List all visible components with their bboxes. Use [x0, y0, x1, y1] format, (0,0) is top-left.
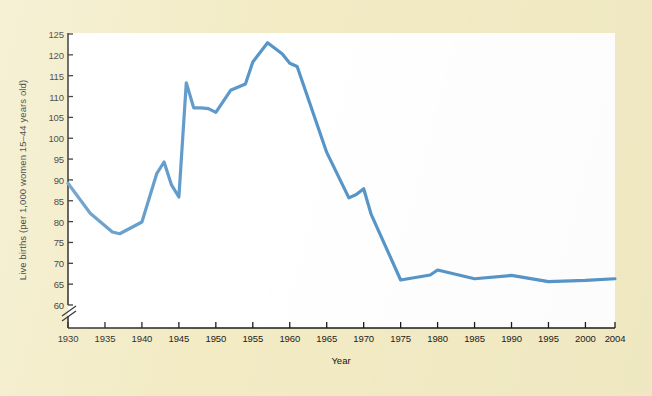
y-tick-label: 110: [38, 91, 64, 102]
x-tick-label: 1995: [538, 333, 559, 344]
y-tick-label: 80: [38, 216, 64, 227]
x-tick-label: 1980: [427, 333, 448, 344]
y-tick-label: 120: [38, 49, 64, 60]
x-axis-title: Year: [331, 355, 350, 366]
x-tick-label: 1955: [242, 333, 263, 344]
y-tick-label: 65: [38, 279, 64, 290]
y-tick-label: 105: [38, 112, 64, 123]
x-tick-label: 1960: [279, 333, 300, 344]
y-tick-label: 95: [38, 154, 64, 165]
x-tick-label: 1990: [501, 333, 522, 344]
x-tick-label: 1930: [58, 333, 79, 344]
y-tick-label: 115: [38, 70, 64, 81]
x-tick-label: 1975: [390, 333, 411, 344]
x-tick-label: 2004: [605, 333, 626, 344]
birth-rate-line: [68, 43, 615, 282]
x-tick-label: 1940: [132, 333, 153, 344]
y-tick-label: 70: [38, 258, 64, 269]
axis-break-icon: [62, 306, 76, 321]
y-tick-label: 60: [38, 300, 64, 311]
x-tick-label: 1950: [205, 333, 226, 344]
x-tick-label: 2000: [575, 333, 596, 344]
x-tick-label: 1985: [464, 333, 485, 344]
x-tick-label: 1970: [353, 333, 374, 344]
y-tick-label: 125: [38, 29, 64, 40]
y-tick-label: 100: [38, 133, 64, 144]
y-tick-label: 85: [38, 195, 64, 206]
x-tick-label: 1945: [169, 333, 190, 344]
data-series-group: [68, 43, 615, 282]
x-tick-label: 1935: [95, 333, 116, 344]
figure-container: 6065707580859095100105110115120125 19301…: [0, 0, 652, 396]
y-axis-title: Live births (per 1,000 women 15–44 years…: [17, 80, 28, 280]
y-tick-label: 90: [38, 174, 64, 185]
axes-group: [62, 33, 615, 328]
x-tick-marks: [68, 322, 615, 328]
x-tick-label: 1965: [316, 333, 337, 344]
y-tick-label: 75: [38, 237, 64, 248]
